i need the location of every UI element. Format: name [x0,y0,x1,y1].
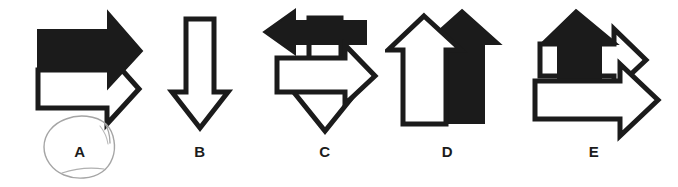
figure-c[interactable]: C [255,0,395,187]
figure-c-label: C [255,143,395,161]
figure-d-label: D [385,143,510,161]
figure-a-label: A [0,143,160,161]
figure-b-label: B [160,143,240,161]
arrow-figures-sheet: A B C D [0,0,678,187]
figure-d[interactable]: D [385,0,510,187]
figure-e-label: E [510,143,678,161]
figure-e[interactable]: E [510,0,678,187]
figure-a[interactable]: A [0,0,160,187]
white-down-arrow [172,19,228,128]
figure-b[interactable]: B [160,0,240,187]
